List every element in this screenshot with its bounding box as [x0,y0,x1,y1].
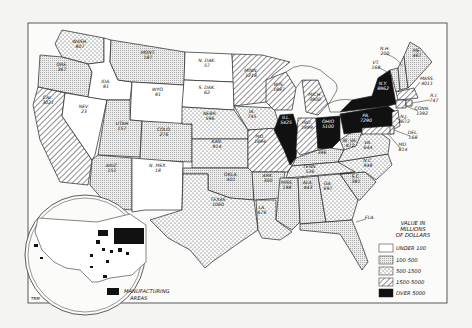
svg-text:TRM: TRM [31,296,40,301]
svg-text:MANUFACTURING: MANUFACTURING [124,288,170,294]
svg-text:1500-5000: 1500-5000 [396,279,425,285]
svg-text:LA.676: LA.676 [258,205,267,215]
svg-text:WIS.1887: WIS.1887 [273,82,285,92]
svg-text:N.Y.8962: N.Y.8962 [377,81,389,91]
svg-text:AREAS: AREAS [129,295,148,301]
svg-text:ALA.443: ALA.443 [302,180,313,190]
svg-text:MICH.3900: MICH.3900 [308,92,321,102]
svg-text:ORE.367: ORE.367 [56,62,67,72]
svg-text:MINN.1218: MINN.1218 [244,68,258,78]
svg-text:MO.1894: MO.1894 [254,134,266,144]
svg-text:OHIO5100: OHIO5100 [322,119,334,129]
svg-text:CONN.1392: CONN.1392 [414,106,429,116]
manufacturing-value-map: WASH.807 ORE.367 CAL.3021 NEV.23 IDA.81 … [0,0,472,328]
svg-text:OVER 5000: OVER 5000 [396,290,426,296]
svg-text:ARK.300: ARK.300 [262,173,274,183]
svg-text:MISS.198: MISS.198 [281,180,293,190]
svg-text:ARIZ.151: ARIZ.151 [105,163,118,173]
svg-text:GA.697: GA.697 [324,181,333,191]
inset-map [25,195,146,315]
svg-text:FLA.: FLA. [365,215,375,220]
svg-text:DEL.168: DEL.168 [408,130,418,140]
state-conn [396,100,406,108]
svg-text:VT.168: VT.168 [372,60,381,70]
manufacturing-areas-swatch [107,288,119,295]
svg-text:UNDER 100: UNDER 100 [396,245,427,251]
state-ri [406,100,412,106]
svg-text:KY.396: KY.396 [318,145,327,155]
svg-text:VA.644: VA.644 [364,140,373,150]
svg-text:R.I.747: R.I.747 [430,93,439,103]
svg-text:OF DOLLARS: OF DOLLARS [396,232,431,238]
svg-text:IND.1899: IND.1899 [301,120,313,130]
svg-text:500-1500: 500-1500 [396,268,422,274]
svg-text:MASS.4011: MASS.4011 [420,76,434,86]
svg-text:N.H.200: N.H.200 [380,46,390,56]
state-del [390,126,394,134]
svg-text:100-500: 100-500 [396,257,418,263]
svg-text:CAL.3021: CAL.3021 [42,95,54,105]
svg-text:KAN.914: KAN.914 [211,139,222,149]
svg-text:N.C.948: N.C.948 [363,158,373,168]
svg-text:ME.467: ME.467 [413,48,422,58]
svg-text:MD.814: MD.814 [399,142,408,152]
svg-text:S.C.381: S.C.381 [351,174,360,184]
svg-text:TEXAS1060: TEXAS1060 [211,197,226,207]
